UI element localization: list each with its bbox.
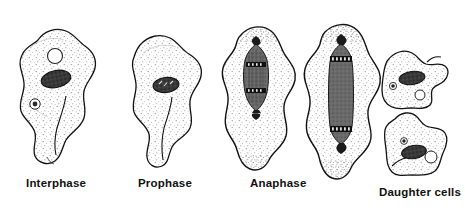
interphase-cell	[15, 25, 105, 170]
daughter-cell-upper	[378, 45, 456, 113]
prophase-cell	[125, 30, 215, 175]
anaphase-cell-1	[215, 20, 305, 180]
cell-division-diagram: Interphase Prophase Anaphase Daughter ce…	[0, 0, 465, 214]
daughter-upper-pseudopod-fold	[427, 57, 441, 62]
interphase-food-vacuole	[48, 49, 63, 64]
stage-label-anaphase: Anaphase	[250, 177, 307, 189]
stage-label-daughter-cells: Daughter cells	[379, 186, 461, 198]
daughter-upper-vacuole	[415, 90, 425, 100]
daughter-cell-lower	[380, 105, 458, 183]
daughter-lower-granule-core	[402, 139, 405, 142]
daughter-upper-granule-core	[391, 84, 395, 88]
daughter-lower-cytoplasm	[380, 105, 458, 183]
interphase-vacuole-core	[33, 102, 38, 107]
anaphase-cell-2	[298, 18, 388, 186]
daughter-lower-vacuole	[425, 151, 437, 163]
stage-label-interphase: Interphase	[26, 177, 86, 189]
stage-label-prophase: Prophase	[138, 177, 192, 189]
